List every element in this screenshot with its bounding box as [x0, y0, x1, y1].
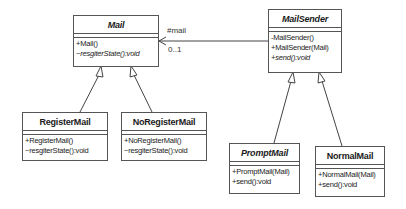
operation: +NormalMail(Mail): [318, 170, 382, 180]
class-name: NoRegisterMail: [122, 113, 206, 131]
operation: ~resgiterState():void: [124, 146, 204, 156]
operations-compartment: +RegisterMail() ~resgiterState():void: [23, 135, 107, 158]
operation: +Mail(): [76, 39, 156, 49]
operation: -MailSender(): [271, 33, 339, 43]
class-mail[interactable]: Mail +Mail() ~resgiterState():void: [73, 15, 159, 67]
operations-compartment: +NoRegisterMail() ~resgiterState():void: [122, 135, 206, 158]
generalization-registermail-to-mail: [80, 66, 103, 112]
generalization-promptmail-to-mailsender: [274, 72, 295, 143]
operation: +RegisterMail(): [25, 136, 105, 146]
operation: ~resgiterState():void: [25, 146, 105, 156]
class-noregistermail[interactable]: NoRegisterMail +NoRegisterMail() ~resgit…: [121, 112, 207, 161]
class-name: Mail: [74, 16, 158, 34]
class-registermail[interactable]: RegisterMail +RegisterMail() ~resgiterSt…: [22, 112, 108, 161]
generalization-normalmail-to-mailsender: [318, 72, 342, 146]
operations-compartment: +Mail() ~resgiterState():void: [74, 38, 158, 61]
association-role-label: #mail: [167, 26, 186, 35]
operation: +NoRegisterMail(): [124, 136, 204, 146]
association-multiplicity-label: 0..1: [168, 45, 181, 54]
association-mailsender-to-mail: [159, 37, 268, 45]
operation: +send():void: [232, 177, 297, 187]
class-name: MailSender: [269, 10, 341, 28]
class-name: PromptMail: [230, 144, 299, 162]
operation: +send():void: [271, 53, 339, 63]
operations-compartment: +PromptMail(Mail) +send():void: [230, 166, 299, 189]
uml-diagram-canvas: #mail 0..1 Mail +Mail() ~resgiterState()…: [0, 0, 406, 209]
operation: ~resgiterState():void: [76, 49, 156, 59]
operation: +send():void: [318, 180, 382, 190]
class-name: NormalMail: [316, 147, 384, 165]
class-name: RegisterMail: [23, 113, 107, 131]
class-promptmail[interactable]: PromptMail +PromptMail(Mail) +send():voi…: [229, 143, 300, 194]
operation: +MailSender(Mail): [271, 43, 339, 53]
operations-compartment: -MailSender() +MailSender(Mail) +send():…: [269, 32, 341, 65]
class-normalmail[interactable]: NormalMail +NormalMail(Mail) +send():voi…: [315, 146, 385, 197]
generalization-noregistermail-to-mail: [130, 66, 152, 112]
class-mailsender[interactable]: MailSender -MailSender() +MailSender(Mai…: [268, 9, 342, 73]
operation: +PromptMail(Mail): [232, 167, 297, 177]
operations-compartment: +NormalMail(Mail) +send():void: [316, 169, 384, 192]
